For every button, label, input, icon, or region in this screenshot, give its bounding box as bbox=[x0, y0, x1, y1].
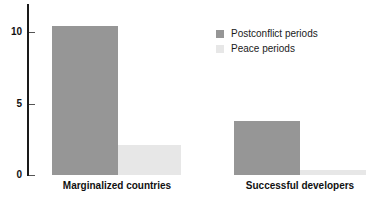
legend-item-postconflict-periods: Postconflict periods bbox=[216, 26, 318, 41]
legend-item-peace-periods: Peace periods bbox=[216, 41, 318, 56]
category-label-marginalized-countries: Marginalized countries bbox=[49, 180, 185, 192]
category-label-successful-developers: Successful developers bbox=[232, 180, 368, 192]
legend-label-postconflict: Postconflict periods bbox=[231, 28, 318, 39]
bar-chart: 10 5 0 Marginalized countries Successful… bbox=[0, 0, 370, 203]
legend-swatch-icon-peace bbox=[216, 45, 224, 53]
legend-label-peace: Peace periods bbox=[231, 43, 295, 54]
bar-marginalized-postconflict bbox=[52, 26, 118, 175]
bar-successful-postconflict bbox=[234, 121, 300, 175]
bar-marginalized-peace bbox=[118, 145, 181, 175]
bar-successful-peace bbox=[300, 170, 366, 175]
legend: Postconflict periods Peace periods bbox=[216, 26, 318, 56]
legend-swatch-icon-postconflict bbox=[216, 30, 224, 38]
